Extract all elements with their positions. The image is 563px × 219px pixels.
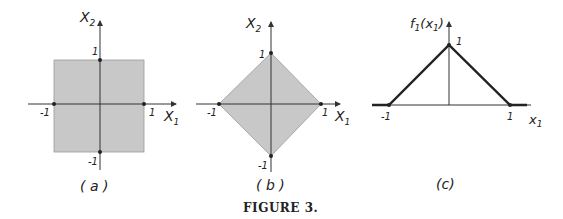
tick-x-neg: -1	[381, 111, 391, 122]
panel-b-diamond: -1 1 1 -1 X2 X1 ( b )	[196, 15, 350, 193]
panel-label-c: (c)	[436, 176, 455, 192]
panel-a-square: -1 1 1 -1 X2 X1 ( a )	[28, 9, 179, 194]
point-x-neg	[387, 103, 391, 107]
point-y-pos	[269, 51, 273, 55]
square-region	[54, 60, 144, 152]
tick-y-neg: -1	[88, 156, 98, 167]
x-axis-label: X1	[163, 108, 179, 127]
y-axis-label: X2	[245, 15, 262, 34]
tick-x-neg: -1	[40, 107, 50, 118]
point-x-neg	[217, 102, 221, 106]
point-x-neg	[52, 102, 56, 106]
tick-peak: 1	[456, 36, 462, 47]
tick-x-neg: -1	[207, 107, 217, 118]
x-axis-label: x1	[528, 112, 542, 129]
tick-y-neg: -1	[258, 160, 268, 171]
y-axis-label: f1(x1)	[410, 16, 444, 33]
point-peak	[447, 43, 451, 47]
y-axis-label: X2	[79, 9, 96, 28]
tick-x-pos: 1	[322, 107, 328, 118]
x-axis-label: X1	[334, 108, 350, 127]
panel-label-b: ( b )	[256, 177, 285, 193]
tick-x-pos: 1	[507, 111, 513, 122]
panel-label-a: ( a )	[80, 178, 108, 194]
tick-y-pos: 1	[92, 46, 98, 57]
point-y-neg	[98, 150, 102, 154]
point-x-pos	[508, 103, 512, 107]
point-y-neg	[269, 154, 273, 158]
tick-y-pos: 1	[259, 49, 265, 60]
figure-caption: FIGURE 3.	[243, 201, 318, 215]
figure-canvas: -1 1 1 -1 X2 X1 ( a ) -1 1 1 -1 X2 X1 ( …	[0, 0, 563, 219]
point-x-pos	[319, 102, 323, 106]
tick-x-pos: 1	[149, 107, 155, 118]
point-y-pos	[98, 58, 102, 62]
panel-c-triangle: -1 1 1 f1(x1) x1 (c)	[372, 16, 542, 192]
point-x-pos	[142, 102, 146, 106]
